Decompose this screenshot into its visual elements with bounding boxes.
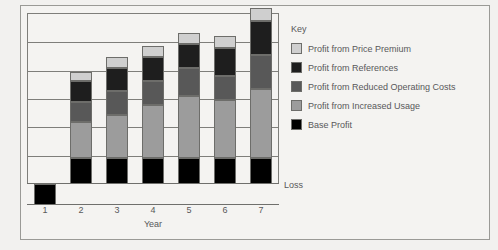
- bar-segment[interactable]: [70, 81, 92, 102]
- legend-swatch-icon: [291, 100, 302, 111]
- legend-item-label: Profit from Increased Usage: [308, 101, 420, 111]
- x-tick-label: 5: [178, 205, 200, 215]
- legend-item-label: Profit from Price Premium: [308, 44, 411, 54]
- bar-segment[interactable]: [106, 91, 128, 115]
- x-tick-label: 7: [250, 205, 272, 215]
- legend-item[interactable]: Profit from References: [291, 58, 487, 77]
- bar-segment[interactable]: [178, 158, 200, 184]
- bar-segment[interactable]: [214, 76, 236, 100]
- bar-segment[interactable]: [178, 96, 200, 158]
- x-axis-title: Year: [27, 219, 279, 229]
- bar-segment[interactable]: [178, 33, 200, 44]
- legend-swatch-icon: [291, 62, 302, 73]
- x-tick-label: 1: [34, 205, 56, 215]
- x-tick-label: 2: [70, 205, 92, 215]
- bar-segment[interactable]: [250, 55, 272, 89]
- bar-segment[interactable]: [214, 48, 236, 76]
- x-tick-label: 4: [142, 205, 164, 215]
- bar-segment[interactable]: [214, 36, 236, 47]
- bar-segment[interactable]: [250, 158, 272, 184]
- bar-segment[interactable]: [142, 105, 164, 157]
- bars-layer: [27, 13, 279, 184]
- bar-segment[interactable]: [214, 100, 236, 158]
- legend-swatch-icon: [291, 43, 302, 54]
- bar-segment[interactable]: [106, 115, 128, 158]
- bar-segment[interactable]: [70, 102, 92, 123]
- legend-item-label: Profit from References: [308, 63, 398, 73]
- bar-segment[interactable]: [142, 81, 164, 105]
- loss-label: Loss: [284, 180, 303, 190]
- bar-segment[interactable]: [106, 158, 128, 184]
- x-tick-label: 6: [214, 205, 236, 215]
- x-tick-label: 3: [106, 205, 128, 215]
- bar-segment[interactable]: [250, 8, 272, 21]
- bar-segment[interactable]: [106, 57, 128, 68]
- bar-segment[interactable]: [178, 44, 200, 68]
- legend-item-label: Profit from Reduced Operating Costs: [308, 82, 456, 92]
- legend-swatch-icon: [291, 119, 302, 130]
- legend-swatch-icon: [291, 81, 302, 92]
- bar-segment[interactable]: [106, 68, 128, 90]
- bar-segment[interactable]: [142, 46, 164, 57]
- bar-segment[interactable]: [250, 21, 272, 55]
- bar-segment[interactable]: [214, 158, 236, 184]
- bar-segment[interactable]: [70, 158, 92, 184]
- legend-item[interactable]: Profit from Price Premium: [291, 39, 487, 58]
- legend-title: Key: [291, 24, 487, 34]
- legend: Key Profit from Price PremiumProfit from…: [291, 24, 487, 134]
- bar-segment[interactable]: [178, 68, 200, 96]
- loss-bar-year-1[interactable]: [34, 184, 56, 205]
- bar-segment[interactable]: [142, 57, 164, 81]
- legend-item[interactable]: Profit from Reduced Operating Costs: [291, 77, 487, 96]
- legend-item[interactable]: Base Profit: [291, 115, 487, 134]
- bar-segment[interactable]: [142, 158, 164, 184]
- bar-segment[interactable]: [70, 72, 92, 81]
- bar-segment[interactable]: [70, 122, 92, 158]
- chart-figure: 1234567 Year Loss Key Profit from Price …: [0, 0, 498, 250]
- bar-segment[interactable]: [250, 89, 272, 158]
- zero-line: [27, 183, 279, 184]
- legend-item[interactable]: Profit from Increased Usage: [291, 96, 487, 115]
- legend-item-label: Base Profit: [308, 120, 352, 130]
